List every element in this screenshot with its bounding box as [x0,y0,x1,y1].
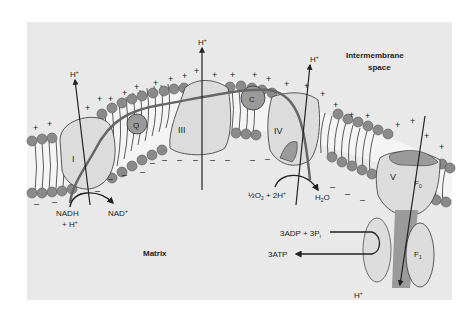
svg-text:+: + [349,110,354,120]
c-label: C [249,95,255,104]
svg-text:+: + [85,103,90,113]
h-plus-i: H+ [70,69,79,79]
svg-text:+: + [266,74,271,84]
svg-text:–: – [345,189,350,199]
svg-text:+: + [230,70,235,80]
diagram-canvas: I III IV Q C V F0 F1 [0,0,475,322]
svg-text:+: + [108,94,113,104]
svg-text:–: – [162,155,167,165]
svg-text:+: + [97,94,102,104]
svg-text:+: + [304,81,309,91]
svg-text:–: – [177,155,182,165]
svg-text:+: + [439,142,444,152]
svg-text:+: + [320,89,325,99]
svg-text:–: – [193,155,198,165]
svg-text:–: – [80,188,85,198]
adp-label: 3ADP + 3Pi [280,229,321,239]
svg-text:+: + [284,79,289,89]
complex-i: I [60,117,115,189]
h-plus-iv: H+ [310,54,319,64]
svg-text:+: + [194,66,199,76]
svg-text:+: + [33,123,38,133]
svg-text:+: + [252,70,257,80]
svg-text:–: – [225,155,230,165]
atp-label: 3ATP [268,250,287,259]
complex-iv-label: IV [274,126,283,136]
h-plus-v: H+ [354,290,363,300]
svg-text:–: – [122,170,127,180]
matrix-label: Matrix [143,249,167,258]
intermembrane-label: Intermembrane [346,51,404,60]
svg-text:–: – [210,155,215,165]
svg-text:–: – [150,158,155,168]
space-label: space [368,63,391,72]
svg-text:+: + [134,82,139,92]
svg-text:–: – [52,197,57,207]
svg-text:+: + [47,119,52,129]
h-plus-iii: H+ [198,37,207,47]
svg-text:+: + [168,74,173,84]
svg-text:+: + [395,120,400,130]
complex-i-label: I [72,154,75,164]
water-label: H2O [315,193,330,203]
nad-label: NAD+ [108,208,128,218]
complex-iii-label: III [178,125,186,135]
svg-text:+: + [212,70,217,80]
svg-text:+: + [365,111,370,121]
nadh-h-label: + H+ [62,219,78,229]
svg-text:+: + [333,100,338,110]
svg-text:–: – [34,199,39,209]
svg-text:–: – [330,182,335,192]
svg-text:+: + [122,88,127,98]
svg-text:–: – [95,186,100,196]
oxygen-label: ½O2 + 2H+ [248,190,286,201]
svg-text:–: – [108,174,113,184]
q-label: Q [133,121,139,130]
svg-text:–: – [140,167,145,177]
svg-text:+: + [410,116,415,126]
svg-text:–: – [265,154,270,164]
svg-text:–: – [360,195,365,205]
complex-iv: IV [268,93,320,165]
svg-text:+: + [153,78,158,88]
svg-text:–: – [250,155,255,165]
ubiquinone-q: Q [127,114,147,134]
svg-text:+: + [182,71,187,81]
nadh-label: NADH [56,209,79,218]
complex-v-label: V [390,172,396,182]
svg-text:+: + [424,131,429,141]
